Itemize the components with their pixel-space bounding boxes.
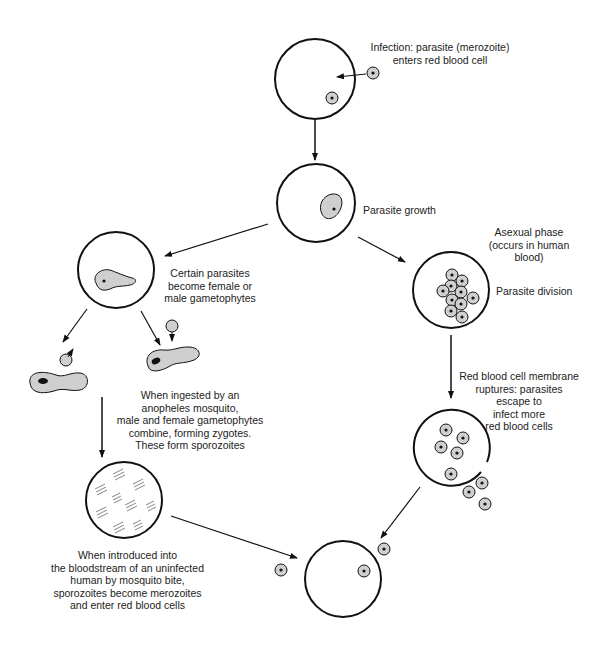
label-infection: Infection: parasite (merozoite) enters r…: [360, 41, 520, 66]
arrow-growth-to-gametophyte: [165, 224, 268, 256]
label-growth: Parasite growth: [363, 204, 436, 217]
arrow-growth-to-division: [358, 237, 405, 262]
label-rupture-line: infect more: [454, 408, 584, 421]
label-asexual-line: blood): [484, 251, 574, 264]
arrow-to-male-gametophyte: [141, 311, 160, 345]
label-mosquito-line: When ingested by an: [110, 389, 270, 402]
label-introduced-line: human by mosquito bite,: [40, 574, 215, 587]
label-gametophytes-line: Certain parasites: [160, 267, 260, 280]
label-gametophytes: Certain parasites become female or male …: [160, 267, 260, 305]
gametophyte-cell: [78, 232, 154, 308]
label-introduced: When introduced into the bloodstream of …: [40, 549, 215, 612]
arrow-to-female-gametophyte: [63, 309, 87, 342]
arrow-rupture-to-reinfection: [381, 487, 420, 538]
label-asexual-line: (occurs in human: [484, 239, 574, 252]
label-rupture-line: red blood cells: [454, 420, 584, 433]
label-division-line: Parasite division: [496, 285, 572, 298]
label-mosquito: When ingested by an anopheles mosquito, …: [110, 389, 270, 452]
female-gametophyte: [30, 349, 88, 393]
label-mosquito-line: male and female gametophytes: [110, 414, 270, 427]
male-gametophyte: [147, 320, 199, 371]
label-introduced-line: When introduced into: [40, 549, 215, 562]
label-gametophytes-line: male gametophytes: [160, 292, 260, 305]
label-asexual-line: Asexual phase: [484, 226, 574, 239]
label-introduced-line: the bloodstream of an uninfected: [40, 562, 215, 575]
label-infection-line: enters red blood cell: [360, 54, 520, 67]
sporozoite-cell: [86, 462, 162, 538]
label-mosquito-line: combine, forming zygotes.: [110, 427, 270, 440]
label-gametophytes-line: become female or: [160, 280, 260, 293]
label-rupture-line: ruptures: parasites: [454, 383, 584, 396]
label-asexual-phase: Asexual phase (occurs in human blood): [484, 226, 574, 264]
label-rupture-line: Red blood cell membrane: [454, 370, 584, 383]
label-growth-line: Parasite growth: [363, 204, 436, 217]
label-rupture: Red blood cell membrane ruptures: parasi…: [454, 370, 584, 433]
division-cell: [413, 252, 489, 328]
growth-cell: [277, 164, 355, 242]
reinfection-cell: [275, 541, 390, 617]
label-introduced-line: sporozoites become merozoites: [40, 587, 215, 600]
label-mosquito-line: anopheles mosquito,: [110, 402, 270, 415]
label-division: Parasite division: [496, 285, 572, 298]
label-rupture-line: escape to: [454, 395, 584, 408]
label-introduced-line: and enter red blood cells: [40, 599, 215, 612]
label-infection-line: Infection: parasite (merozoite): [360, 41, 520, 54]
label-mosquito-line: These form sporozoites: [110, 439, 270, 452]
